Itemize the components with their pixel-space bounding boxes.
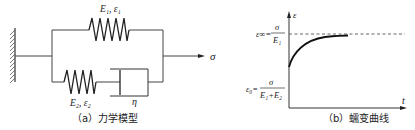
y-axis-arrow-icon [287,11,291,18]
spring-e1-icon [52,18,163,41]
caption-mechanical-model: （a）力学模型 [72,112,138,124]
fixed-wall-icon [10,28,15,83]
eps-0-formula: ε₀= σ E₁+E₂ [246,77,285,100]
x-axis: t [289,95,407,110]
svg-text:E₁+E₂: E₁+E₂ [259,90,282,100]
creep-curve [289,36,348,68]
svg-text:σ: σ [269,77,274,87]
spring-e1-label: E₁, ε₁ [99,4,121,14]
load-sigma-label: σ [210,50,216,62]
y-axis-label: ε [293,10,297,20]
x-axis-label: t [402,95,405,106]
spring-e2-icon [52,70,120,94]
dashpot-label: η [132,96,137,107]
svg-text:σ: σ [275,22,280,32]
creep-curve-chart: ε t ε∞= σ E₁ ε₀= σ E₁+E₂ （b）蠕变曲线 [246,10,407,124]
eps-inf-formula: ε∞= σ E₁ [256,22,285,45]
svg-text:ε∞=: ε∞= [256,29,271,39]
svg-text:E₁: E₁ [272,35,281,45]
spring-e2-label: E₂, ε₂ [69,98,92,108]
applied-stress-arrow-icon [163,54,205,58]
svg-text:ε₀=: ε₀= [246,84,258,94]
caption-creep-curve: （b）蠕变曲线 [323,112,389,124]
x-axis-arrow-icon [400,106,407,110]
mechanical-model: E₁, ε₁ E₂, ε₂ η σ （a）力学模型 [10,4,216,124]
